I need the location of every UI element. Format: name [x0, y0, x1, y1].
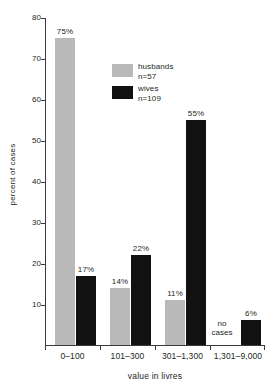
y-axis-title: percent of cases: [8, 127, 17, 223]
bar-value-wives-0: 17%: [71, 266, 101, 274]
x-tick-mark-end: [264, 346, 265, 350]
bar-value-husbands-1: 14%: [105, 278, 135, 286]
no-cases-line-2: cases: [212, 328, 233, 337]
legend-label-husbands: husbands n=57: [138, 62, 174, 81]
y-tick-30: 30: [0, 219, 41, 227]
y-tick-label-60: 60: [19, 96, 41, 104]
x-tick-mark-2: [155, 346, 156, 350]
legend-series-n-wives: n=109: [138, 94, 161, 104]
y-tick-label-40: 40: [19, 178, 41, 186]
legend-swatch-husbands-icon: [112, 64, 133, 77]
y-tick-70: 70: [0, 55, 41, 63]
x-category-label-2: 301–1,300: [155, 352, 210, 361]
bar-value-wives-2: 55%: [181, 110, 211, 118]
bar-value-wives-1: 22%: [126, 245, 156, 253]
bar-wives-3: [241, 320, 261, 345]
legend-label-wives: wives n=109: [138, 84, 161, 103]
bar-wives-2: [186, 120, 206, 345]
y-tick-label-70: 70: [19, 55, 41, 63]
legend-swatch-wives-icon: [112, 86, 133, 99]
bar-value-husbands-2: 11%: [160, 290, 190, 298]
no-cases-annotation: no cases: [205, 319, 239, 337]
legend-series-name-wives: wives: [138, 84, 159, 93]
y-tick-label-20: 20: [19, 260, 41, 268]
x-category-label-3: 1,301–9,000: [208, 352, 268, 361]
bar-husbands-0: [55, 38, 75, 345]
y-tick-label-10: 10: [19, 301, 41, 309]
legend-item-wives: wives n=109: [112, 84, 202, 103]
bar-value-husbands-0: 75%: [50, 28, 80, 36]
y-tick-label-80: 80: [19, 14, 41, 22]
x-category-label-1: 101–300: [100, 352, 155, 361]
legend-item-husbands: husbands n=57: [112, 62, 202, 81]
x-category-label-0: 0–100: [45, 352, 100, 361]
legend-series-name-husbands: husbands: [138, 62, 174, 71]
bar-wives-0: [76, 276, 96, 345]
bar-value-wives-3: 6%: [236, 310, 266, 318]
bar-chart: 80 70 60 50 40 30 20 10 percent of cases…: [0, 0, 275, 392]
no-cases-line-1: no: [218, 319, 227, 328]
bar-husbands-1: [110, 288, 130, 345]
x-tick-mark-3: [210, 346, 211, 350]
bar-husbands-2: [165, 300, 185, 345]
x-tick-mark-start: [45, 346, 46, 350]
y-tick-60: 60: [0, 96, 41, 104]
legend-series-n-husbands: n=57: [138, 72, 174, 82]
x-tick-mark-1: [100, 346, 101, 350]
y-tick-40: 40: [0, 178, 41, 186]
y-tick-10: 10: [0, 301, 41, 309]
y-tick-label-50: 50: [19, 137, 41, 145]
y-tick-80: 80: [0, 14, 41, 22]
y-tick-label-30: 30: [19, 219, 41, 227]
bar-wives-1: [131, 255, 151, 345]
x-axis-title: value in livres: [45, 371, 265, 381]
y-tick-20: 20: [0, 260, 41, 268]
legend: husbands n=57 wives n=109: [112, 62, 202, 106]
y-tick-50: 50: [0, 137, 41, 145]
